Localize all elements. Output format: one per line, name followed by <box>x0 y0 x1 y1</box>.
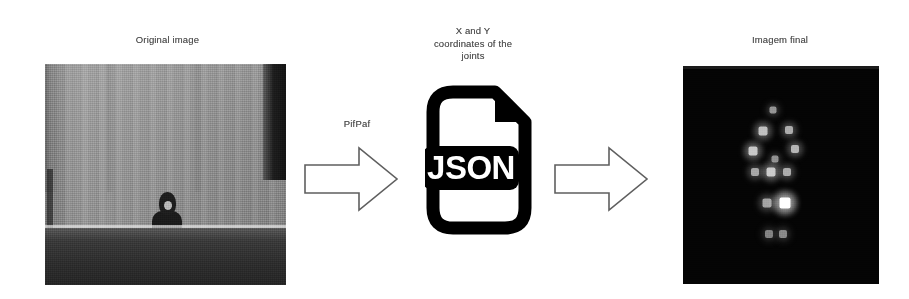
keypoint-right-knee <box>780 198 791 209</box>
keypoint-left-elbow <box>749 147 758 156</box>
caption-json-coordinates: X and Y coordinates of the joints <box>398 25 548 63</box>
arrow-original-to-json <box>303 145 399 217</box>
label-pifpaf: PifPaf <box>317 118 397 129</box>
keypoint-left-shoulder <box>759 127 768 136</box>
keypoint-right-hip <box>783 168 791 176</box>
keypoint-mid-hip <box>767 168 776 177</box>
original-image-photo <box>45 64 286 285</box>
keypoint-chest-center <box>772 156 779 163</box>
diagram-canvas: Original image X and Y coordinates of th… <box>0 0 909 299</box>
keypoint-right-ankle <box>779 230 787 238</box>
keypoint-right-elbow <box>791 145 799 153</box>
json-badge-text: JSON <box>427 149 515 186</box>
wall-seam-mid <box>107 64 114 192</box>
keypoint-left-hip <box>751 168 759 176</box>
keypoint-right-shoulder <box>785 126 793 134</box>
caption-original-image: Original image <box>60 34 275 47</box>
keypoint-left-knee <box>763 199 772 208</box>
final-image-heatmap <box>683 66 879 284</box>
arrow-json-to-final <box>553 145 649 217</box>
heatmap-grain-overlay <box>683 66 879 284</box>
json-file-icon: JSON <box>425 84 535 236</box>
photo-dark-band-right <box>263 64 286 180</box>
caption-imagem-final: Imagem final <box>690 34 870 47</box>
photo-ground <box>45 228 286 285</box>
keypoint-left-ankle <box>765 230 773 238</box>
wall-seam-right <box>195 64 204 192</box>
person-face <box>164 201 172 210</box>
keypoint-nose <box>770 107 777 114</box>
photo-post-left <box>47 169 53 231</box>
heatmap-top-edge <box>683 66 879 69</box>
